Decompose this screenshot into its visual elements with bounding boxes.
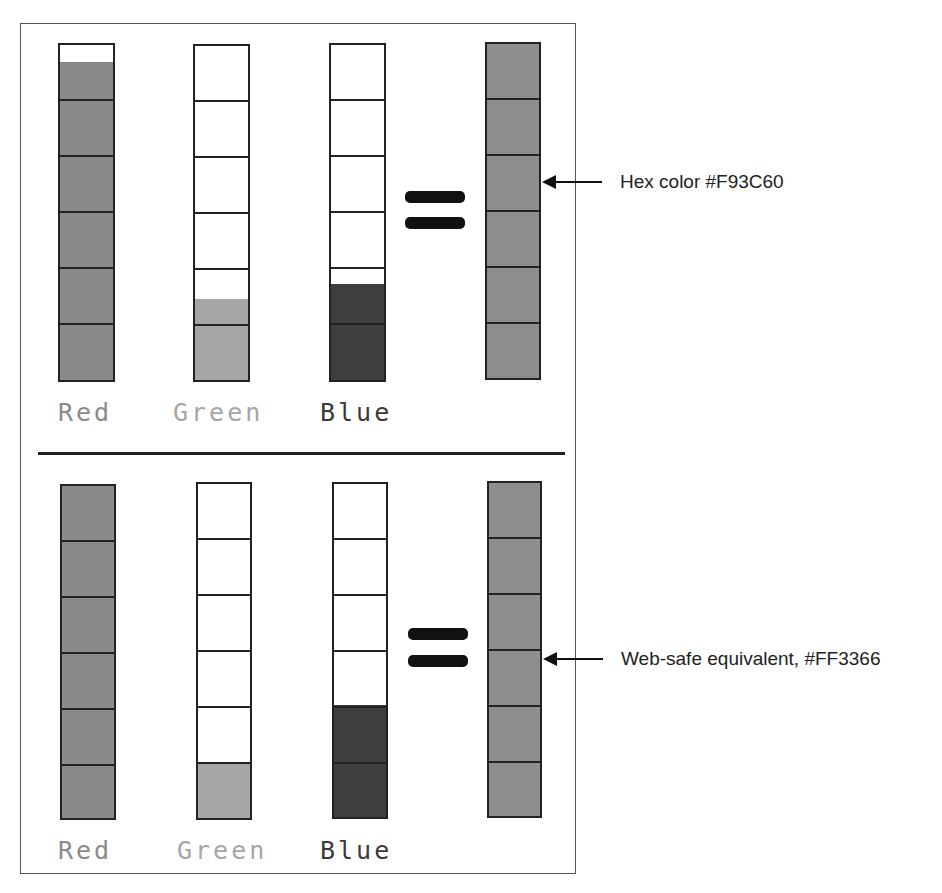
hex-color-annotation: Hex color #F93C60 xyxy=(544,172,784,192)
equals-sign xyxy=(405,191,465,231)
blue-channel-column xyxy=(329,43,386,382)
green-channel-column xyxy=(193,44,250,382)
column-gridlines xyxy=(487,44,539,378)
column-gridlines xyxy=(331,45,384,380)
column-gridlines xyxy=(198,484,250,818)
equals-sign xyxy=(408,628,468,668)
blue-channel-column xyxy=(332,482,388,819)
web-safe-text: Web-safe equivalent, #FF3366 xyxy=(621,648,880,670)
column-gridlines xyxy=(195,46,248,380)
red-channel-column xyxy=(60,484,116,820)
green-channel-column xyxy=(196,482,252,820)
red-label: Red xyxy=(58,400,112,425)
result-color-column xyxy=(487,481,542,818)
hex-color-text: Hex color #F93C60 xyxy=(620,171,784,193)
column-gridlines xyxy=(489,483,540,816)
column-gridlines xyxy=(60,45,113,380)
green-label: Green xyxy=(173,400,263,425)
blue-label: Blue xyxy=(320,400,392,425)
web-safe-annotation: Web-safe equivalent, #FF3366 xyxy=(545,649,880,669)
red-channel-column xyxy=(58,43,115,382)
section-divider xyxy=(38,452,565,455)
green-label: Green xyxy=(177,838,267,863)
left-arrow-icon xyxy=(544,181,602,183)
result-color-column xyxy=(485,42,541,380)
left-arrow-icon xyxy=(545,658,603,660)
column-gridlines xyxy=(334,484,386,817)
blue-label: Blue xyxy=(320,838,392,863)
red-label: Red xyxy=(58,838,112,863)
column-gridlines xyxy=(62,486,114,818)
